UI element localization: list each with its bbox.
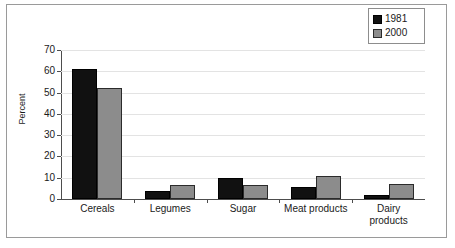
- y-axis-tick-label: 30: [44, 130, 55, 140]
- black-square-swatch: [373, 15, 382, 24]
- bar-legumes-1981: [145, 191, 170, 200]
- bar-sugar-2000: [243, 185, 268, 199]
- x-axis-category-label: Sugar: [207, 203, 280, 215]
- chart-legend: 19812000: [368, 8, 425, 44]
- y-axis-tick-label: 20: [44, 151, 55, 161]
- legend-item-1981[interactable]: 1981: [373, 12, 420, 26]
- bar-legumes-2000: [170, 185, 195, 199]
- gridline: [61, 50, 425, 51]
- x-axis-category-label: Dairy products: [352, 203, 425, 226]
- y-axis-tick-label: 60: [44, 66, 55, 76]
- bar-meat-products-2000: [316, 176, 341, 199]
- legend-item-label: 1981: [385, 14, 407, 24]
- legend-item-label: 2000: [385, 28, 407, 38]
- y-axis-tick-mark: [57, 50, 61, 51]
- y-axis-tick-label: 70: [44, 45, 55, 55]
- y-axis-tick-label: 10: [44, 173, 55, 183]
- bar-sugar-1981: [218, 178, 243, 199]
- plot-area: [61, 50, 425, 199]
- bar-chart-figure: 706050403020100 Percent 19812000 Cereals…: [0, 0, 455, 248]
- gray-square-swatch: [373, 29, 382, 38]
- y-axis-title: Percent: [17, 79, 27, 139]
- y-axis-tick-mark: [57, 71, 61, 72]
- x-axis-category-label: Cereals: [61, 203, 134, 215]
- bar-cereals-1981: [72, 69, 97, 199]
- bar-cereals-2000: [97, 88, 122, 199]
- y-axis-tick-mark: [57, 93, 61, 94]
- y-axis-tick-label: 0: [49, 194, 55, 204]
- y-axis-tick-label: 40: [44, 109, 55, 119]
- bar-dairy-products-2000: [389, 184, 414, 199]
- legend-item-2000[interactable]: 2000: [373, 26, 420, 40]
- y-axis-tick-label: 50: [44, 88, 55, 98]
- gridline: [61, 71, 425, 72]
- bar-dairy-products-1981: [364, 195, 389, 199]
- x-axis-line: [61, 199, 425, 200]
- y-axis-tick-mark: [57, 178, 61, 179]
- x-axis-category-label: Legumes: [134, 203, 207, 215]
- bar-meat-products-1981: [291, 187, 316, 199]
- y-axis-tick-mark: [57, 199, 61, 200]
- y-axis-tick-mark: [57, 156, 61, 157]
- y-axis-tick-mark: [57, 114, 61, 115]
- y-axis-tick-mark: [57, 135, 61, 136]
- x-axis-category-label: Meat products: [279, 203, 352, 215]
